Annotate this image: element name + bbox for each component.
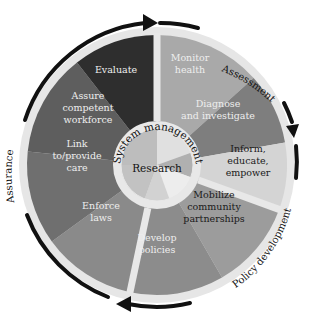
label-evaluate: Evaluate <box>95 64 138 75</box>
assurance-label: Assurance <box>2 149 16 205</box>
label-inform: Inform,educate,empower <box>226 143 271 178</box>
arrow-right-lower <box>296 146 297 178</box>
label-monitor-health: Monitorhealth <box>171 52 210 75</box>
label-develop-policies: Developpolicies <box>137 232 176 255</box>
essential-services-wheel: System management Research Monitorhealth… <box>0 0 317 325</box>
research-label: Research <box>132 162 182 174</box>
arrow-top-right <box>160 23 198 28</box>
arrow-bottom <box>128 303 190 307</box>
